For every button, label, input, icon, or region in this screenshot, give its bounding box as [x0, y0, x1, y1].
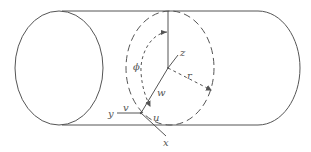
center-point [167, 67, 169, 69]
cylinder-left-end [15, 11, 103, 125]
label-w: w [157, 87, 166, 98]
label-z: z [179, 47, 186, 58]
origin-point [140, 112, 142, 114]
cylinder-right-end [258, 11, 300, 125]
cylinder [15, 11, 300, 125]
cylinder-diagram: z ϕ r w v y u x [0, 0, 311, 152]
label-phi: ϕ [133, 61, 140, 72]
label-u: u [153, 112, 159, 123]
label-x: x [163, 137, 169, 148]
label-r: r [187, 70, 193, 81]
z-axis [168, 55, 178, 68]
label-y: y [107, 108, 114, 119]
label-v: v [123, 102, 129, 113]
